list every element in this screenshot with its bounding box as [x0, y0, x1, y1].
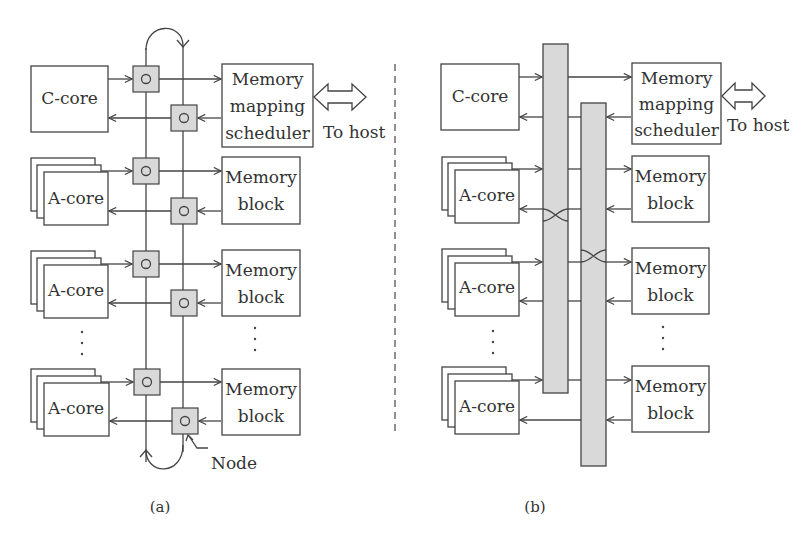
bus-bar-2: [581, 103, 606, 466]
node-callout-line: [189, 436, 208, 448]
bus-bar-1: [543, 44, 568, 393]
node: [171, 105, 197, 131]
a-core-label: A-core: [47, 398, 104, 418]
memory-label: Memory: [635, 376, 707, 396]
c-core-label-a: C-core: [41, 88, 98, 108]
mms-label-line2-a: mapping: [230, 96, 305, 116]
node: [133, 66, 159, 92]
memory-label: Memory: [635, 166, 707, 186]
mms-label-line3-b: scheduler: [634, 120, 720, 140]
to-host-label-a: To host: [323, 122, 386, 142]
a-core-stack-a-row3: A-core: [31, 369, 109, 436]
to-host-label-b: To host: [727, 115, 790, 135]
memory-label: Memory: [225, 379, 297, 399]
a-core-label: A-core: [47, 280, 104, 300]
a-core-stack-b-row2: A-core: [442, 249, 519, 316]
a-core-stack-b-row3: A-core: [442, 367, 519, 434]
block-label: block: [647, 403, 694, 423]
block-label: block: [647, 193, 694, 213]
panel-a: C-core Memory mapping scheduler To host …: [31, 28, 386, 516]
caption-b: (b): [524, 498, 545, 516]
block-label: block: [647, 285, 694, 305]
memory-label: Memory: [225, 260, 297, 280]
architecture-diagram: C-core Memory mapping scheduler To host …: [0, 0, 809, 533]
memory-label: Memory: [225, 167, 297, 187]
a-core-stack-a-row1: A-core: [31, 158, 108, 225]
a-core-label: A-core: [458, 277, 515, 297]
to-host-double-arrow-icon-a: [314, 84, 366, 110]
block-label: block: [238, 287, 285, 307]
ring-top-arc: [146, 28, 183, 50]
a-core-stack-b-row1: A-core: [442, 157, 519, 223]
block-label: block: [238, 194, 285, 214]
a-core-label: A-core: [458, 396, 515, 416]
mms-label-line1-a: Memory: [232, 69, 304, 89]
memory-label: Memory: [635, 258, 707, 278]
c-core-label-b: C-core: [452, 86, 509, 106]
mms-label-line2-b: mapping: [639, 94, 714, 114]
a-core-label: A-core: [458, 185, 515, 205]
a-core-stack-a-row2: A-core: [31, 251, 108, 318]
to-host-double-arrow-icon-b: [722, 83, 765, 109]
node-label: Node: [211, 453, 257, 473]
panel-b: C-core Memory mapping scheduler To host …: [441, 44, 790, 516]
block-label: block: [238, 406, 285, 426]
a-core-label: A-core: [47, 188, 104, 208]
mms-label-line1-b: Memory: [641, 68, 713, 88]
mms-label-line3-a: scheduler: [225, 123, 311, 143]
caption-a: (a): [150, 498, 171, 516]
